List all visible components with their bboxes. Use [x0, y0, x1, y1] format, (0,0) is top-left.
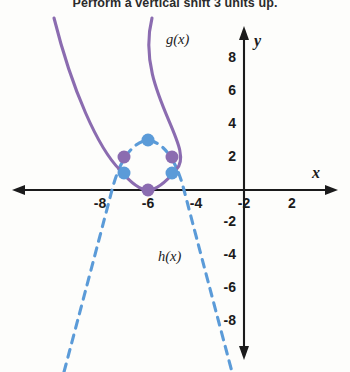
point-g-vertex: [142, 184, 155, 197]
x-tick-label: -6: [142, 195, 155, 211]
x-axis-arrow-left: [12, 185, 25, 195]
y-tick-labels: 8 6 4 2 -2 -4 -6 -8: [224, 49, 237, 328]
y-tick-label: -6: [224, 279, 237, 295]
point-h-left: [118, 167, 131, 180]
graph-figure: Perform a vertical shift 3 units up. -8 …: [0, 0, 350, 372]
y-axis: [239, 26, 249, 360]
y-tick-label: -8: [224, 312, 237, 328]
x-axis-arrow-right: [325, 185, 338, 195]
x-tick-label: -2: [238, 195, 251, 211]
g-curve-label: g(x): [166, 31, 190, 48]
point-g-right: [166, 151, 179, 164]
x-tick-label: -4: [190, 195, 203, 211]
point-h-vertex: [142, 134, 155, 147]
y-axis-name: y: [252, 32, 262, 50]
y-tick-label: 2: [228, 148, 236, 164]
x-axis-name: x: [311, 164, 320, 181]
y-tick-label: 4: [228, 115, 236, 131]
y-tick-label: -4: [224, 246, 237, 262]
h-curve: [64, 140, 232, 372]
y-axis-arrow-up: [239, 26, 249, 40]
y-tick-label: -2: [224, 213, 237, 229]
x-tick-labels: -8 -6 -4 -2 2: [94, 195, 296, 211]
point-h-right: [166, 167, 179, 180]
y-tick-label: 6: [228, 82, 236, 98]
x-axis: [12, 185, 338, 195]
x-tick-label: -8: [94, 195, 107, 211]
y-tick-label: 8: [228, 49, 236, 65]
x-tick-label: 2: [288, 195, 296, 211]
coordinate-plane: -8 -6 -4 -2 2 8 6 4 2 -2 -4 -6 -8 x y: [0, 0, 350, 372]
point-g-left: [118, 151, 131, 164]
y-axis-arrow-down: [239, 346, 249, 360]
h-curve-label: h(x): [158, 248, 182, 265]
g-curve: [54, 18, 181, 190]
